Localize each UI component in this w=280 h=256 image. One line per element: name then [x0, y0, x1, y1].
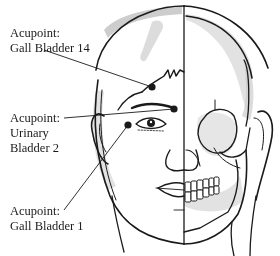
- acupoint-marker-ub2: [170, 105, 177, 112]
- label-gb1-line1: Acupoint:: [10, 204, 84, 219]
- label-gb14-line2: Gall Bladder 14: [10, 41, 90, 56]
- label-ub2-line1: Acupoint:: [10, 111, 60, 126]
- acupoint-marker-gb1: [124, 121, 131, 128]
- label-gb1-line2: Gall Bladder 1: [10, 219, 84, 234]
- label-ub2-line2: Urinary: [10, 126, 60, 141]
- label-gall-bladder-14: Acupoint: Gall Bladder 14: [10, 26, 90, 56]
- label-gb14-line1: Acupoint:: [10, 26, 90, 41]
- acupoint-marker-gb14: [148, 83, 155, 90]
- label-gall-bladder-1: Acupoint: Gall Bladder 1: [10, 204, 84, 234]
- leader-line-ub2: [64, 109, 174, 118]
- label-ub2-line3: Bladder 2: [10, 141, 60, 156]
- acupoint-diagram: Acupoint: Gall Bladder 14 Acupoint: Urin…: [0, 0, 280, 256]
- label-urinary-bladder-2: Acupoint: Urinary Bladder 2: [10, 111, 60, 156]
